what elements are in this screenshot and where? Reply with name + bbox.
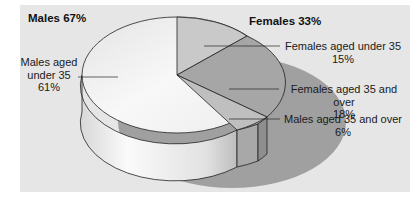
females-group-label: Females 33% xyxy=(249,15,321,27)
slice-label-males-under-35: Males aged under 35 61% xyxy=(20,56,78,94)
slice-label-females-under-35: Females aged under 35 15% xyxy=(282,40,404,65)
label-line: under 35 xyxy=(20,69,78,82)
label-line: Males aged 35 and over xyxy=(282,113,404,126)
pie-side-females xyxy=(258,117,267,161)
label-value: 6% xyxy=(282,126,404,139)
label-line: Females aged under 35 xyxy=(282,40,404,53)
label-line: Females aged 35 and over xyxy=(279,83,409,108)
slice-label-males-35-over: Males aged 35 and over 6% xyxy=(282,113,404,138)
pie-side-males-over35 xyxy=(237,124,258,167)
label-value: 15% xyxy=(282,53,404,66)
label-value: 61% xyxy=(20,81,78,94)
males-group-label: Males 67% xyxy=(28,12,86,24)
label-line: Males aged xyxy=(20,56,78,69)
